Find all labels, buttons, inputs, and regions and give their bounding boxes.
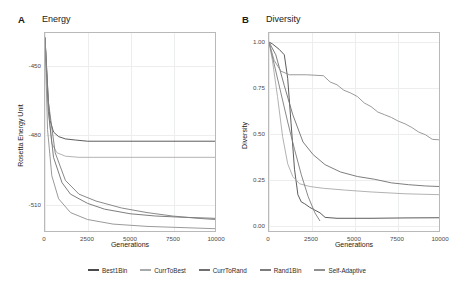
diversity-curves (269, 33, 439, 231)
y-tick-label: 0.50 (230, 129, 268, 136)
x-axis-label-b: Generations (268, 241, 440, 248)
y-axis-ticks-a: -450-480-510 (4, 32, 44, 232)
figure-legend: Best1BinCurrToBestCurrToRandRand1BinSelf… (0, 262, 454, 278)
legend-item-currtobest: CurrToBest (140, 267, 186, 274)
y-axis-label-a: Rosetta Energy Unit (17, 76, 24, 196)
series-self-adaptive (269, 42, 439, 140)
series-self-adaptive (45, 38, 215, 229)
series-best1bin (45, 38, 215, 142)
legend-label: Best1Bin (102, 267, 127, 274)
plot-area-diversity (268, 32, 440, 232)
panel-title-b: Diversity (266, 14, 301, 24)
legend-item-self-adaptive: Self-Adaptive (314, 267, 365, 274)
legend-label: Rand1Bin (274, 267, 302, 274)
series-rand1bin (45, 38, 215, 220)
legend-line-icon (199, 269, 210, 270)
y-tick-label: 0.75 (230, 84, 268, 91)
x-axis-label-a: Generations (44, 241, 216, 248)
panel-label-a: A (18, 14, 25, 25)
legend-line-icon (260, 269, 271, 270)
legend-item-currtorand: CurrToRand (199, 267, 247, 274)
y-tick-label: -510 (6, 201, 44, 208)
legend-line-icon (314, 269, 325, 270)
legend-item-rand1bin: Rand1Bin (260, 267, 302, 274)
legend-label: CurrToBest (154, 267, 186, 274)
figure-container: A Energy -450-480-510 025005000750010000… (0, 0, 454, 292)
series-rand1bin (269, 42, 320, 221)
legend-line-icon (88, 269, 99, 270)
panel-energy: A Energy -450-480-510 025005000750010000… (4, 8, 226, 256)
legend-item-best1bin: Best1Bin (88, 267, 127, 274)
y-tick-label: 0.25 (230, 175, 268, 182)
y-axis-ticks-b: 0.000.250.500.751.00 (228, 32, 268, 232)
series-best1bin (269, 42, 439, 218)
y-tick-label: 0.00 (230, 221, 268, 228)
energy-curves (45, 33, 215, 231)
legend-label: CurrToRand (213, 267, 247, 274)
y-tick-label: -480 (6, 131, 44, 138)
panel-diversity: B Diversity 0.000.250.500.751.00 0250050… (228, 8, 450, 256)
legend-line-icon (140, 269, 151, 270)
panel-title-a: Energy (42, 14, 71, 24)
y-axis-label-b: Diversity (241, 76, 248, 196)
y-tick-label: 1.00 (230, 38, 268, 45)
plot-area-energy (44, 32, 216, 232)
legend-label: Self-Adaptive (328, 267, 365, 274)
series-currtorand (45, 38, 215, 219)
panel-label-b: B (242, 14, 249, 25)
y-tick-label: -450 (6, 61, 44, 68)
